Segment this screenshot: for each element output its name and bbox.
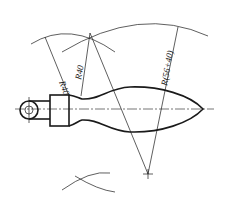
construction-arcs [31,24,208,192]
handle-drawing: R40 R40 R(56+40) [0,0,227,210]
handle-body [20,87,203,132]
dimension-r1: R40 [57,78,72,96]
dimension-r3: R(56+40) [159,50,175,88]
